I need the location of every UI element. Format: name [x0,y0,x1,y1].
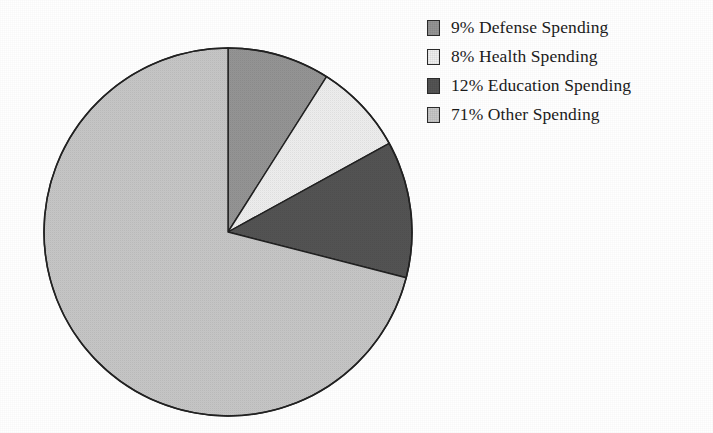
legend-item-education[interactable]: 12% Education Spending [427,71,697,100]
legend: 9% Defense Spending 8% Health Spending 1… [427,13,697,129]
legend-swatch-health [427,49,440,65]
legend-label-health: 8% Health Spending [451,48,598,66]
pie-slices-texture [44,48,412,416]
legend-label-education: 12% Education Spending [451,77,631,95]
legend-item-defense[interactable]: 9% Defense Spending [427,13,697,42]
legend-label-defense: 9% Defense Spending [451,19,608,37]
pie-chart-figure: 9% Defense Spending 8% Health Spending 1… [0,0,713,433]
legend-label-other: 71% Other Spending [451,106,600,124]
pie-chart-svg [42,46,414,418]
legend-swatch-defense [427,20,440,36]
legend-swatch-education [427,78,440,94]
legend-item-health[interactable]: 8% Health Spending [427,42,697,71]
legend-item-other[interactable]: 71% Other Spending [427,100,697,129]
legend-swatch-other [427,107,440,123]
pie-chart [42,46,414,418]
